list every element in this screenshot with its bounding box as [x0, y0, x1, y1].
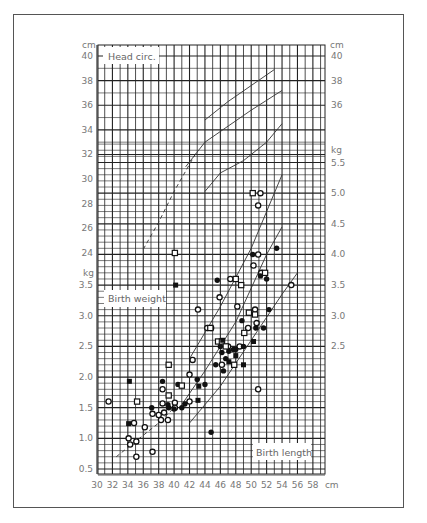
left-head-tick-label: 28: [82, 199, 94, 209]
data-point-open-circle: [134, 454, 139, 459]
data-point-open-circle: [161, 410, 166, 415]
x-tick-label: 30: [91, 480, 103, 490]
data-point-filled-circle: [219, 350, 224, 355]
data-point-open-circle: [190, 357, 195, 362]
data-point-open-square: [262, 270, 267, 275]
right-weight-tick-label: 3.0: [331, 311, 346, 321]
left-head-tick-label: 32: [82, 149, 93, 159]
data-point-open-circle: [142, 425, 147, 430]
left-head-tick-label: 36: [82, 100, 94, 110]
data-point-open-circle: [150, 411, 155, 416]
data-point-filled-circle: [261, 325, 266, 330]
x-tick-label: 52: [261, 480, 272, 490]
x-tick-label: 48: [230, 480, 242, 490]
head-circ-label: Head circ.: [108, 51, 156, 62]
data-point-filled-circle: [149, 405, 154, 410]
x-tick-label: 40: [168, 480, 180, 490]
data-point-open-circle: [258, 191, 263, 196]
right-head-tick-label: 38: [331, 76, 343, 86]
data-point-open-square: [134, 399, 139, 404]
data-point-filled-circle: [202, 382, 207, 387]
data-point-open-square: [179, 383, 184, 388]
data-point-open-circle: [254, 321, 259, 326]
data-point-filled-circle: [274, 246, 279, 251]
x-unit-label: cm: [325, 480, 339, 490]
data-point-open-circle: [256, 203, 261, 208]
right-head-tick-label: 36: [331, 100, 343, 110]
data-point-open-square: [166, 362, 171, 367]
data-point-filled-circle: [253, 325, 258, 330]
data-point-open-circle: [228, 276, 233, 281]
data-point-filled-square: [127, 379, 132, 384]
data-points: [106, 191, 294, 460]
data-point-open-square: [239, 283, 244, 288]
data-point-filled-circle: [208, 430, 213, 435]
data-point-open-square: [223, 344, 228, 349]
data-point-open-circle: [134, 439, 139, 444]
data-point-filled-square: [251, 339, 256, 344]
data-point-open-circle: [187, 372, 192, 377]
data-point-filled-circle: [166, 405, 171, 410]
birth-length-label: Birth length: [256, 447, 312, 458]
x-tick-label: 38: [153, 480, 165, 490]
left-head-tick-label: 34: [82, 125, 94, 135]
data-point-filled-square: [233, 353, 238, 358]
left-kg-unit: kg: [83, 268, 94, 278]
grid: [97, 45, 325, 475]
right-kg-unit: kg: [331, 145, 342, 155]
x-tick-label: 58: [307, 480, 319, 490]
left-weight-tick-label: 2.0: [79, 372, 94, 382]
data-point-open-circle: [165, 417, 170, 422]
data-point-open-circle: [219, 362, 224, 367]
x-tick-label: 34: [122, 480, 134, 490]
data-point-filled-square: [196, 384, 201, 389]
right-weight-tick-label: 4.5: [331, 219, 345, 229]
data-point-filled-square: [196, 398, 201, 403]
left-weight-tick-label: 0.5: [79, 464, 93, 474]
x-tick-label: 44: [199, 480, 211, 490]
data-point-filled-circle: [171, 406, 176, 411]
left-cm-unit: cm: [82, 40, 96, 50]
data-point-open-circle: [160, 401, 165, 406]
data-point-filled-circle: [160, 379, 165, 384]
data-point-open-square: [208, 325, 213, 330]
data-point-open-circle: [289, 283, 294, 288]
left-weight-tick-label: 1.0: [79, 433, 94, 443]
left-head-tick-label: 24: [82, 248, 94, 258]
data-point-filled-square: [226, 359, 231, 364]
data-point-filled-circle: [241, 344, 246, 349]
data-point-open-circle: [235, 304, 240, 309]
data-point-filled-square: [173, 283, 178, 288]
data-point-filled-circle: [221, 368, 226, 373]
data-point-open-circle: [128, 442, 133, 447]
data-point-open-square: [166, 393, 171, 398]
data-point-filled-circle: [239, 318, 244, 323]
data-point-filled-circle: [182, 401, 187, 406]
data-point-open-circle: [106, 399, 111, 404]
data-point-filled-square: [220, 338, 225, 343]
plot-border: [98, 45, 325, 474]
birth-weight-label: Birth weight: [108, 293, 166, 304]
data-point-open-circle: [217, 295, 222, 300]
left-weight-tick-label: 2.5: [79, 341, 93, 351]
head-circ-reference-line: [186, 90, 282, 166]
left-weight-tick-label: 1.5: [79, 403, 93, 413]
head-circ-reference-line: [205, 70, 274, 120]
data-point-open-circle: [256, 252, 261, 257]
x-tick-label: 42: [184, 480, 195, 490]
left-head-tick-label: 26: [82, 223, 94, 233]
data-point-open-circle: [126, 436, 131, 441]
data-point-open-circle: [195, 307, 200, 312]
x-tick-label: 50: [245, 480, 257, 490]
data-point-filled-square: [126, 421, 131, 426]
left-weight-tick-label: 3.5: [79, 280, 93, 290]
data-point-open-square: [242, 330, 247, 335]
right-head-tick-label: 40: [331, 51, 343, 61]
data-point-open-circle: [187, 399, 192, 404]
x-tick-label: 54: [276, 480, 288, 490]
data-point-open-square: [172, 250, 177, 255]
data-point-open-circle: [131, 420, 136, 425]
data-point-filled-circle: [213, 362, 218, 367]
right-cm-unit: cm: [330, 40, 344, 50]
data-point-filled-circle: [266, 307, 271, 312]
